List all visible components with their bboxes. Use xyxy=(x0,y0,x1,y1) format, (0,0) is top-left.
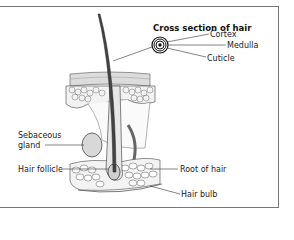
label-sebaceous-line2: gland xyxy=(18,141,40,150)
label-cortex: Cortex xyxy=(210,30,236,39)
label-hair-follicle: Hair follicle xyxy=(18,165,63,174)
label-medulla: Medulla xyxy=(227,41,258,50)
label-sebaceous-line1: Sebaceous xyxy=(18,131,61,140)
hair-cross-section xyxy=(152,37,168,53)
sebaceous-gland-shape xyxy=(82,133,102,157)
label-cuticle: Cuticle xyxy=(207,54,235,63)
label-hair-bulb: Hair bulb xyxy=(181,190,217,199)
diagram-title: Cross section of hair xyxy=(153,23,251,33)
label-root-of-hair: Root of hair xyxy=(180,165,226,174)
